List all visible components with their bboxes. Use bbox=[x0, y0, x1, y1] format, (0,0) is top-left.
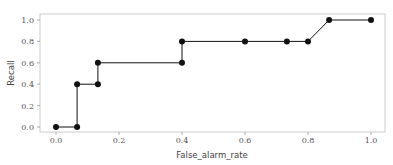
y-tick-label: 1.0 bbox=[21, 16, 34, 25]
data-point-marker bbox=[326, 17, 332, 23]
x-tick-label: 0.4 bbox=[176, 136, 189, 145]
y-tick-label: 0.6 bbox=[21, 59, 34, 68]
y-tick-label: 0.8 bbox=[21, 37, 34, 46]
x-axis-label: False_alarm_rate bbox=[176, 150, 248, 160]
recall-vs-false-alarm-chart: 0.00.20.40.60.81.0 0.00.20.40.60.81.0 Fa… bbox=[0, 0, 393, 165]
data-point-marker bbox=[305, 38, 311, 44]
data-point-marker bbox=[284, 38, 290, 44]
data-point-marker bbox=[95, 81, 101, 87]
data-point-marker bbox=[179, 38, 185, 44]
data-point-marker bbox=[368, 17, 374, 23]
y-tick-label: 0.0 bbox=[21, 123, 34, 132]
y-axis-label: Recall bbox=[6, 60, 16, 85]
x-tick-label: 1.0 bbox=[365, 136, 378, 145]
data-point-marker bbox=[95, 60, 101, 66]
data-point-marker bbox=[242, 38, 248, 44]
x-axis-ticks: 0.00.20.40.60.81.0 bbox=[50, 132, 378, 145]
x-tick-label: 0.2 bbox=[113, 136, 126, 145]
data-point-marker bbox=[53, 124, 59, 130]
y-tick-label: 0.2 bbox=[21, 102, 34, 111]
y-tick-label: 0.4 bbox=[21, 80, 34, 89]
data-point-marker bbox=[179, 60, 185, 66]
x-tick-label: 0.0 bbox=[50, 136, 63, 145]
x-tick-label: 0.6 bbox=[239, 136, 252, 145]
plot-frame bbox=[40, 14, 385, 132]
y-axis-ticks: 0.00.20.40.60.81.0 bbox=[21, 16, 40, 132]
x-tick-label: 0.8 bbox=[302, 136, 315, 145]
data-point-marker bbox=[74, 124, 80, 130]
data-point-marker bbox=[74, 81, 80, 87]
